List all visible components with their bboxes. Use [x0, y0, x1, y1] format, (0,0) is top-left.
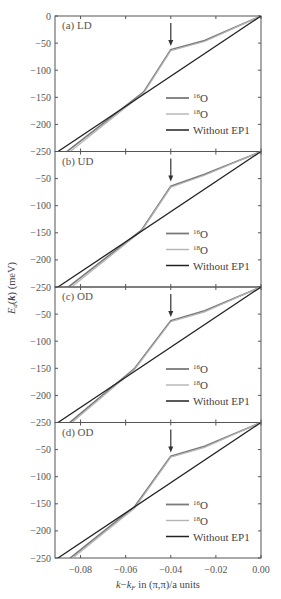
panel-label: (c) OD: [62, 290, 93, 303]
y-tick-label: −50: [35, 38, 51, 49]
legend-label: 18O: [193, 379, 208, 391]
y-tick-label: −250: [30, 146, 51, 157]
y-tick-label: −150: [30, 227, 51, 238]
y-tick-label: −250: [30, 282, 51, 293]
panel-d: −50−100−150−200−250(d) OD16O18OWithout E…: [30, 423, 261, 570]
x-tick-label: −0.08: [69, 564, 92, 575]
y-tick-label: −100: [30, 336, 51, 347]
y-tick-label: −50: [35, 444, 51, 455]
y-tick-label: −150: [30, 363, 51, 374]
x-tick-label: −0.06: [114, 564, 137, 575]
y-tick-label: −250: [30, 553, 51, 564]
legend-label: 16O: [193, 92, 208, 104]
x-tick-label: −0.04: [159, 564, 182, 575]
panel-c: −50−100−150−200−250(c) OD16O18OWithout E…: [30, 287, 261, 434]
series-18o: [58, 152, 261, 298]
y-tick-label: −200: [30, 119, 51, 130]
series-18o: [58, 16, 261, 161]
y-tick-label: −150: [30, 92, 51, 103]
legend-label: Without EP1: [193, 531, 250, 543]
dispersion-chart: 0−50−100−150−200−250(a) LD16O18OWithout …: [0, 0, 281, 599]
panel-a: 0−50−100−150−200−250(a) LD16O18OWithout …: [30, 11, 261, 162]
legend-label: Without EP1: [193, 260, 250, 272]
legend-label: 16O: [193, 363, 208, 375]
y-tick-label: −250: [30, 417, 51, 428]
legend-label: 16O: [193, 228, 208, 240]
x-tick-label: −0.02: [204, 564, 227, 575]
legend-label: 18O: [193, 515, 208, 527]
y-tick-label: −100: [30, 65, 51, 76]
x-tick-label: 0.00: [252, 564, 270, 575]
series-16o: [58, 287, 261, 432]
y-tick-label: −100: [30, 471, 51, 482]
y-tick-label: −50: [35, 173, 51, 184]
x-axis-label: k−kF in (π,π)/a units: [116, 579, 200, 592]
legend-label: 18O: [193, 108, 208, 120]
legend-label: 18O: [193, 244, 208, 256]
y-tick-label: −200: [30, 390, 51, 401]
legend-label: 16O: [193, 499, 208, 511]
y-axis-label: Ed(k) (meV): [6, 261, 19, 315]
legend-label: Without EP1: [193, 395, 250, 407]
series-18o: [58, 287, 261, 434]
panel-label: (a) LD: [62, 19, 92, 32]
y-tick-label: −150: [30, 498, 51, 509]
legend-label: Without EP1: [193, 124, 250, 136]
series-18o: [58, 423, 261, 570]
panel-label: (d) OD: [62, 426, 94, 439]
panel-b: −50−100−150−200−250(b) UD16O18OWithout E…: [30, 152, 261, 298]
y-tick-label: −100: [30, 200, 51, 211]
y-tick-label: −200: [30, 525, 51, 536]
y-tick-label: 0: [46, 11, 51, 22]
y-tick-label: −50: [35, 309, 51, 320]
y-tick-label: −200: [30, 254, 51, 265]
panel-label: (b) UD: [62, 155, 94, 168]
